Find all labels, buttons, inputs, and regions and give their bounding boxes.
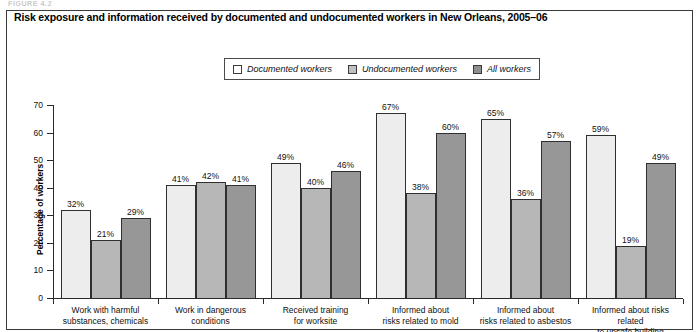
x-tick-mark xyxy=(158,299,159,304)
bar[interactable]: 42% xyxy=(196,182,226,298)
y-tick-label: 0 xyxy=(13,294,43,302)
figure-kicker: FIGURE 4.2 xyxy=(8,0,52,7)
bar[interactable]: 38% xyxy=(406,193,436,298)
chart-legend: Documented workers Undocumented workers … xyxy=(224,58,540,80)
bar-group: 59%19%49% xyxy=(578,105,683,298)
category-label: Informed about risks relatedto unsafe bu… xyxy=(578,305,683,332)
figure-title: Risk exposure and information received b… xyxy=(14,11,547,23)
bar[interactable]: 32% xyxy=(61,210,91,298)
bar[interactable]: 59% xyxy=(586,135,616,298)
x-tick-mark xyxy=(473,299,474,304)
bar-value-label: 19% xyxy=(622,235,639,245)
bar-slot: 67% xyxy=(376,105,406,298)
x-tick-mark xyxy=(578,299,579,304)
bar-slot: 41% xyxy=(166,105,196,298)
bar-slot: 42% xyxy=(196,105,226,298)
bar-group: 65%36%57% xyxy=(473,105,578,298)
bar[interactable]: 41% xyxy=(166,185,196,298)
bar-slot: 19% xyxy=(616,105,646,298)
bar[interactable]: 60% xyxy=(436,133,466,298)
bar-slot: 36% xyxy=(511,105,541,298)
bar[interactable]: 21% xyxy=(91,240,121,298)
bar[interactable]: 40% xyxy=(301,188,331,298)
bar-group: 49%40%46% xyxy=(263,105,368,298)
y-axis-title: Percentage of workers xyxy=(35,164,45,255)
bar[interactable]: 41% xyxy=(226,185,256,298)
bar-value-label: 57% xyxy=(547,130,564,140)
bar-value-label: 59% xyxy=(592,124,609,134)
bar[interactable]: 67% xyxy=(376,113,406,298)
bar-group: 41%42%41% xyxy=(158,105,263,298)
bar[interactable]: 65% xyxy=(481,119,511,298)
y-tick-label: 10 xyxy=(13,266,43,274)
bar-value-label: 41% xyxy=(232,174,249,184)
bar-value-label: 32% xyxy=(67,199,84,209)
category-label: Work with harmfulsubstances, chemicals xyxy=(53,305,158,332)
bar-slot: 49% xyxy=(271,105,301,298)
bar-slot: 57% xyxy=(541,105,571,298)
legend-label-all: All workers xyxy=(487,64,531,74)
legend-label-undocumented: Undocumented workers xyxy=(362,64,457,74)
bar-slot: 60% xyxy=(436,105,466,298)
x-tick-mark xyxy=(53,299,54,304)
bar[interactable]: 36% xyxy=(511,199,541,298)
legend-item-all-workers[interactable]: All workers xyxy=(473,64,531,74)
x-tick-mark xyxy=(263,299,264,304)
figure-root: FIGURE 4.2 Risk exposure and information… xyxy=(0,0,699,332)
bar-group: 67%38%60% xyxy=(368,105,473,298)
bar-slot: 38% xyxy=(406,105,436,298)
y-tick-label: 70 xyxy=(13,101,43,109)
bar-value-label: 29% xyxy=(127,207,144,217)
bar-value-label: 36% xyxy=(517,188,534,198)
bar[interactable]: 49% xyxy=(271,163,301,298)
legend-item-undocumented-workers[interactable]: Undocumented workers xyxy=(348,64,457,74)
bar-value-label: 40% xyxy=(307,177,324,187)
bar-slot: 59% xyxy=(586,105,616,298)
category-label: Work in dangerousconditions xyxy=(158,305,263,332)
category-labels: Work with harmfulsubstances, chemicalsWo… xyxy=(53,305,683,332)
legend-swatch-icon-all xyxy=(473,65,482,74)
x-tick-mark xyxy=(683,299,684,304)
bar-slot: 41% xyxy=(226,105,256,298)
bar[interactable]: 49% xyxy=(646,163,676,298)
category-label: Informed aboutrisks related to asbestos xyxy=(473,305,578,332)
category-label: Received trainingfor worksite xyxy=(263,305,368,332)
bar[interactable]: 29% xyxy=(121,218,151,298)
x-tick-mark xyxy=(368,299,369,304)
bar-slot: 32% xyxy=(61,105,91,298)
bar-value-label: 67% xyxy=(382,102,399,112)
y-tick-label: 60 xyxy=(13,129,43,137)
bar[interactable]: 57% xyxy=(541,141,571,298)
bar-value-label: 46% xyxy=(337,160,354,170)
legend-swatch-icon-documented xyxy=(233,65,242,74)
bar[interactable]: 19% xyxy=(616,246,646,298)
bar-slot: 49% xyxy=(646,105,676,298)
legend-swatch-icon-undocumented xyxy=(348,65,357,74)
category-label: Informed aboutrisks related to mold xyxy=(368,305,473,332)
bar-value-label: 41% xyxy=(172,174,189,184)
bar-slot: 65% xyxy=(481,105,511,298)
bar-value-label: 60% xyxy=(442,122,459,132)
bar-value-label: 42% xyxy=(202,171,219,181)
bar-slot: 40% xyxy=(301,105,331,298)
bar-group: 32%21%29% xyxy=(53,105,158,298)
bar-slot: 29% xyxy=(121,105,151,298)
bar-value-label: 49% xyxy=(277,152,294,162)
bar-value-label: 21% xyxy=(97,229,114,239)
bar-slot: 46% xyxy=(331,105,361,298)
bar-value-label: 38% xyxy=(412,182,429,192)
bar-groups: 32%21%29%41%42%41%49%40%46%67%38%60%65%3… xyxy=(53,105,683,298)
legend-label-documented: Documented workers xyxy=(247,64,332,74)
bar[interactable]: 46% xyxy=(331,171,361,298)
bar-value-label: 65% xyxy=(487,108,504,118)
legend-item-documented-workers[interactable]: Documented workers xyxy=(233,64,332,74)
bar-slot: 21% xyxy=(91,105,121,298)
bar-value-label: 49% xyxy=(652,152,669,162)
